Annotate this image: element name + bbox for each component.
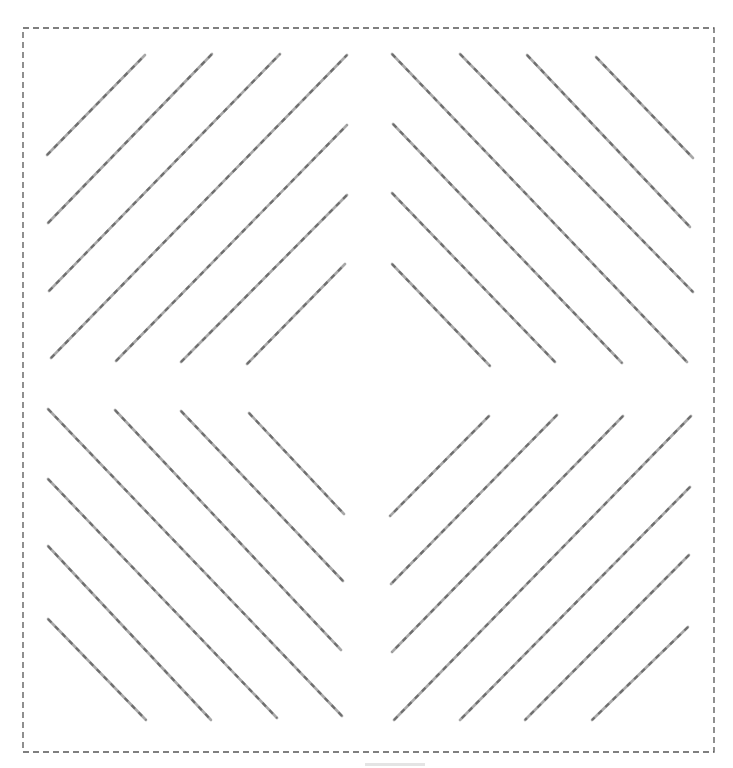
caption-cropped (0, 757, 733, 768)
line-group-bottom-right (390, 415, 691, 720)
diagonal-line (48, 409, 342, 716)
line-group-top-right (392, 54, 693, 366)
diagonal-line (51, 55, 347, 358)
diagonal-lines-group (47, 54, 693, 720)
diagonal-line (392, 54, 687, 362)
line-group-top-left (47, 54, 347, 364)
diagonal-line (394, 416, 691, 720)
dashed-frame (23, 28, 714, 752)
diagonal-line (115, 410, 341, 650)
diagonal-line (392, 193, 555, 362)
caption-text-clipped (365, 763, 425, 766)
line-group-bottom-left (48, 409, 344, 720)
pattern-diagram (0, 0, 733, 768)
